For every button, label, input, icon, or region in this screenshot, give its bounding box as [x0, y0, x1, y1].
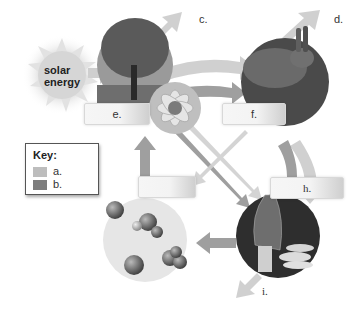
- label-d: d.: [334, 13, 343, 25]
- answer-box-f[interactable]: f.: [222, 103, 286, 125]
- label-c: c.: [199, 13, 208, 25]
- label-e: e.: [112, 108, 121, 120]
- solar-label-line1: solar: [44, 64, 80, 76]
- label-f: f.: [251, 108, 257, 120]
- label-i: i.: [262, 285, 268, 297]
- key-title: Key:: [33, 149, 57, 161]
- key-label-a: a.: [53, 165, 62, 177]
- solar-energy-label: solar energy: [44, 64, 80, 88]
- answer-box-g[interactable]: [138, 176, 196, 198]
- answer-box-h[interactable]: h.: [270, 177, 344, 199]
- key-swatch-b: [33, 180, 47, 190]
- key-label-b: b.: [53, 178, 62, 190]
- nutrients-image: [103, 198, 187, 282]
- solar-label-line2: energy: [44, 76, 80, 88]
- key-swatch-a: [33, 167, 47, 177]
- key-legend: Key: a. b.: [25, 143, 99, 195]
- decomposers-image: [236, 194, 320, 278]
- label-h: h.: [303, 182, 311, 194]
- answer-box-e[interactable]: e.: [84, 103, 150, 125]
